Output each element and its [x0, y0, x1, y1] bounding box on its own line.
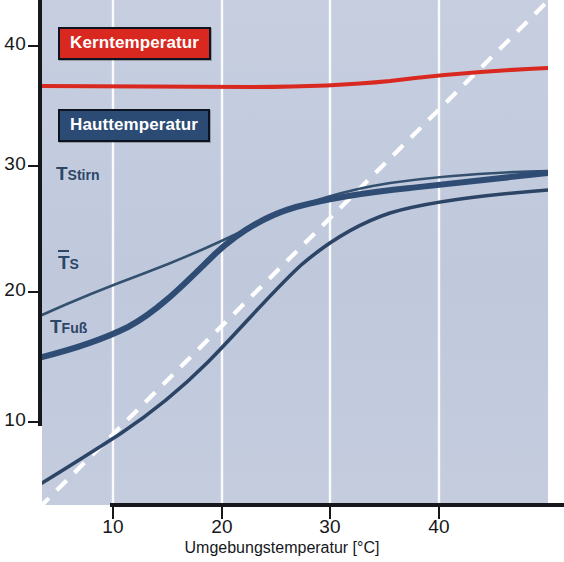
x-axis-title: Umgebungstemperatur [°C] [0, 539, 564, 557]
y-tick-mark-20 [28, 291, 39, 293]
curve-label-t-s-mean-base: T [58, 252, 70, 274]
y-tick-label-40: 40 [4, 33, 26, 55]
y-axis-labels: 40 30 20 10 [0, 0, 26, 505]
chart-canvas [0, 0, 564, 562]
x-axis-line [110, 503, 564, 507]
y-tick-mark-30 [28, 165, 39, 167]
gridlines-vertical [113, 0, 439, 505]
curve-label-t-fuss: TFuß [50, 316, 87, 338]
curve-label-t-stirn-sub: Stirn [68, 167, 100, 183]
series-t-stirn [42, 171, 548, 315]
x-tick-label-40: 40 [428, 516, 450, 538]
legend-badge-hauttemperatur: Hauttemperatur [58, 109, 210, 142]
curve-label-t-stirn-base: T [56, 163, 68, 184]
series-t-fuss [42, 190, 548, 483]
curve-label-t-fuss-base: T [50, 316, 62, 337]
y-tick-mark-40 [28, 45, 39, 47]
y-tick-label-10: 10 [4, 409, 26, 431]
curve-label-t-s-mean: TS [58, 252, 79, 274]
curve-label-t-s-mean-sub: S [70, 256, 79, 272]
series-t-s-mean [42, 173, 548, 357]
series-identity-line [39, 0, 552, 508]
y-tick-label-30: 30 [4, 153, 26, 175]
x-tick-label-30: 30 [319, 516, 341, 538]
y-tick-mark-10 [28, 421, 39, 423]
y-axis-line [38, 0, 42, 426]
x-tick-label-20: 20 [211, 516, 233, 538]
curve-label-t-stirn: TStirn [56, 163, 100, 185]
y-tick-label-20: 20 [4, 279, 26, 301]
x-tick-label-10: 10 [102, 516, 124, 538]
legend-badge-kerntemperatur: Kerntemperatur [58, 27, 211, 60]
temperature-chart-figure: 40 30 20 10 10 20 30 40 Umgebungstempera… [0, 0, 564, 562]
curve-label-t-fuss-sub: Fuß [62, 320, 88, 336]
